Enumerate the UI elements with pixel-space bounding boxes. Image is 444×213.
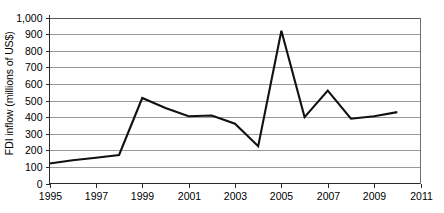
y-tick-label: 900 [25,28,43,40]
x-tick-label: 1995 [39,190,63,202]
plot-area: 1,0009008007006005004003002001000 199519… [0,0,444,213]
x-tick-label: 1999 [131,190,155,202]
fdi-inflow-series-line [50,31,398,164]
x-tick-label: 2003 [224,190,248,202]
y-tick-label: 200 [25,144,43,156]
x-tick-label: 1997 [85,190,109,202]
y-tick-label: 300 [25,128,43,140]
x-tick-label: 2005 [270,190,294,202]
y-tick-label: 800 [25,45,43,57]
y-tick-label: 500 [25,95,43,107]
x-tick-marks [51,184,422,188]
gridlines [50,19,421,168]
y-tick-label: 0 [37,178,43,190]
x-tick-label: 2009 [363,190,387,202]
x-tick-label: 2001 [178,190,202,202]
fdi-inflow-line-chart: FDI inflow (millions of US$) 1,000900800… [0,0,444,213]
x-tick-label: 2007 [317,190,341,202]
y-tick-labels: 1,0009008007006005004003002001000 [16,12,42,190]
y-tick-label: 600 [25,78,43,90]
x-tick-label: 2011 [410,190,433,202]
y-tick-label: 100 [25,161,43,173]
y-tick-label: 1,000 [16,12,42,24]
y-tick-label: 400 [25,111,43,123]
y-tick-label: 700 [25,61,43,73]
x-tick-labels: 199519971999200120032005200720092011 [39,190,433,202]
